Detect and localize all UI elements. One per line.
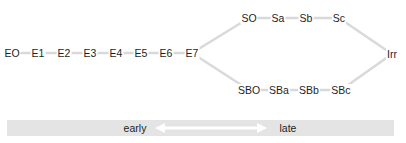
node-sba: SBa <box>268 84 290 96</box>
node-e6: E6 <box>159 47 174 59</box>
node-e2: E2 <box>57 47 72 59</box>
node-e0: EO <box>3 47 20 59</box>
node-sc: Sc <box>332 12 346 24</box>
node-sb: Sb <box>299 12 314 24</box>
node-sbb: SBb <box>298 84 320 96</box>
node-e1: E1 <box>31 47 46 59</box>
timeline-late-label: late <box>280 122 297 134</box>
timeline-early-label: early <box>124 122 147 134</box>
node-e4: E4 <box>109 47 124 59</box>
node-irr: Irr <box>386 48 398 60</box>
connector-sc-irr <box>339 18 392 54</box>
node-s0: SO <box>240 12 257 24</box>
node-e5: E5 <box>134 47 149 59</box>
node-sa: Sa <box>271 12 286 24</box>
node-sb0: SBO <box>237 84 261 96</box>
node-e7: E7 <box>185 47 200 59</box>
node-e3: E3 <box>83 47 98 59</box>
node-sbc: SBc <box>330 84 351 96</box>
double-arrow-icon <box>155 120 267 136</box>
timeline-bar: early late <box>7 120 394 136</box>
hubble-sequence-diagram: EOE1E2E3E4E5E6E7SOSaSbScSBOSBaSBbSBcIrr … <box>0 0 406 143</box>
